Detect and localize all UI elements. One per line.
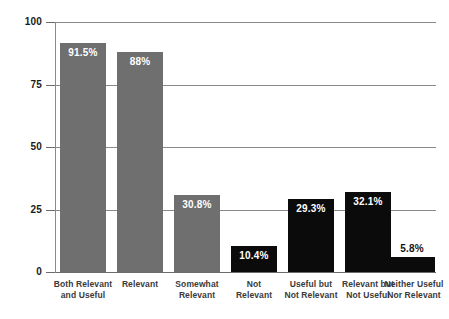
bar-relevant: [117, 52, 163, 272]
bar-chart: 100 75 50 25 0 91.5% 88% 30.8% 10.4% 29.…: [0, 0, 449, 319]
value-label-relevant: 88%: [117, 56, 163, 67]
x-axis-label-line-2: Nor Relevant: [379, 290, 449, 301]
x-axis-label-line-2: and Useful: [50, 290, 116, 301]
value-label-somewhat-relevant: 30.8%: [174, 199, 220, 210]
value-label-relevant-but-not-useful: 32.1%: [345, 196, 391, 207]
bar-neither-useful-nor-relevant: [389, 257, 435, 272]
x-axis-label-neither-useful-nor-relevant: Neither Useful Nor Relevant: [379, 279, 449, 300]
value-label-not-relevant: 10.4%: [231, 250, 277, 261]
x-axis-label-line-1: Neither Useful: [379, 279, 449, 290]
value-label-both-relevant-and-useful: 91.5%: [60, 47, 106, 58]
bar-both-relevant-and-useful: [60, 43, 106, 272]
value-label-neither-useful-nor-relevant: 5.8%: [389, 243, 435, 254]
value-label-useful-but-not-relevant: 29.3%: [288, 203, 334, 214]
